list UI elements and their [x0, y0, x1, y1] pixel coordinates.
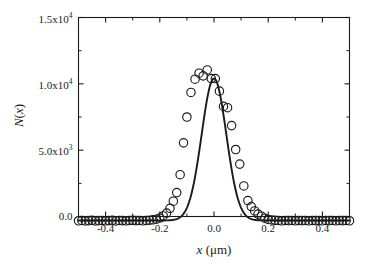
- axis-ticks: [79, 18, 350, 217]
- ytick-label-10000: 1.0x104: [39, 78, 73, 91]
- xtick-label-neg02: -0.2: [140, 223, 180, 234]
- x-axis-title: x (μm): [174, 243, 254, 256]
- xtick-label-02: 0.2: [248, 223, 288, 234]
- xtick-label-neg04: -0.4: [86, 223, 126, 234]
- gaussian-fit-curve: [79, 79, 350, 221]
- xtick-label-0: 0.0: [194, 223, 234, 234]
- ytick-label-5000: 5.0x103: [39, 144, 73, 157]
- ytick-label-0: 0.0: [59, 211, 73, 222]
- xtick-label-04: 0.4: [302, 223, 342, 234]
- figure-container: 1.5x104 1.0x104 5.0x103 0.0 -0.4 -0.2 0.…: [0, 0, 366, 268]
- data-point-markers: [74, 66, 353, 225]
- plot-frame: [79, 18, 350, 217]
- ytick-label-15000: 1.5x104: [39, 12, 73, 25]
- y-axis-title: N(x): [12, 86, 25, 146]
